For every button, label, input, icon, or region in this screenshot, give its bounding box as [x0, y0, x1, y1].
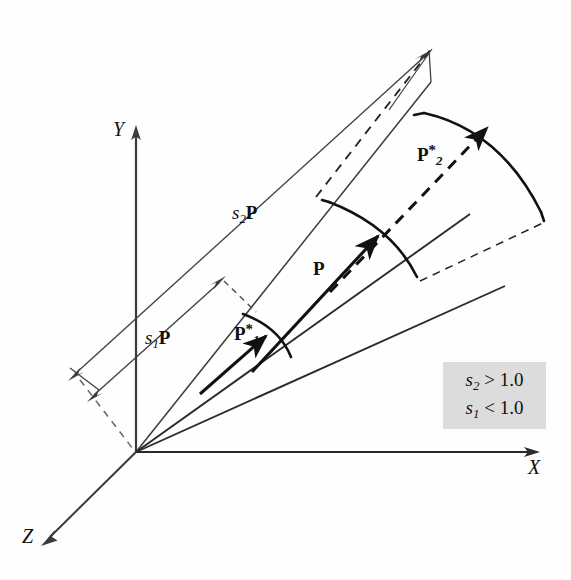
- axis-label-x: X: [528, 457, 540, 477]
- legend2-rel: <: [484, 397, 495, 418]
- p2-sub: 2: [436, 153, 442, 168]
- axis-label-z: Z: [22, 526, 33, 546]
- scale-label-s2p: s2P: [232, 203, 257, 226]
- middle-arc: [322, 200, 417, 277]
- outer-cone-top-line: [389, 49, 432, 110]
- p2-sup: *: [429, 142, 436, 158]
- axis-y: [131, 125, 141, 452]
- axis-x: [136, 447, 540, 457]
- s2p-vec: P: [246, 202, 258, 223]
- p2-base: P: [417, 144, 429, 165]
- cone-upper-edge: [136, 82, 431, 452]
- legend-box: s2 > 1.0 s1 < 1.0: [443, 362, 546, 429]
- legend2-sub: 1: [473, 406, 479, 421]
- vector-p2-star-arrow: [330, 128, 487, 292]
- legend2-base: s: [466, 397, 473, 418]
- p1-base: P: [234, 323, 246, 344]
- legend2-value: 1.0: [500, 397, 524, 418]
- dimension-extension-tick: [70, 368, 99, 390]
- legend-line-2: s1 < 1.0: [466, 397, 524, 422]
- p1-sup: *: [246, 321, 253, 337]
- scale-label-s1p: s1P: [145, 328, 170, 351]
- legend1-sub: 2: [473, 378, 479, 393]
- diagram-canvas: Y X Z P P*1 P*2 s2P s1P s2 > 1.0 s1 < 1.…: [0, 0, 571, 580]
- vector-label-p2-star: P*2: [417, 143, 442, 168]
- cone-middle-edge: [136, 214, 470, 452]
- dimension-base-dashed: [80, 380, 133, 449]
- legend-line-1: s2 > 1.0: [466, 369, 524, 394]
- legend1-base: s: [466, 369, 473, 390]
- axis-label-y: Y: [113, 119, 124, 139]
- diagram-svg: [0, 0, 571, 580]
- s1p-vec: P: [159, 327, 171, 348]
- p1-sub: 1: [253, 332, 259, 347]
- s1-dashed-connector: [224, 281, 256, 312]
- vector-label-p1-star: P*1: [234, 322, 259, 347]
- vector-label-p: P: [313, 259, 325, 278]
- legend1-value: 1.0: [500, 369, 524, 390]
- s2-upper-extent: [429, 50, 431, 82]
- legend1-rel: >: [484, 369, 495, 390]
- axis-z: [41, 452, 136, 546]
